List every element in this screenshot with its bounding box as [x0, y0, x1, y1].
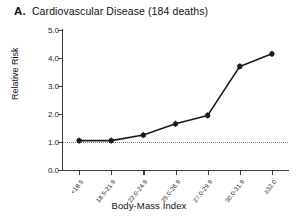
x-tick-mark [176, 170, 177, 175]
data-series [63, 30, 288, 170]
y-tick-label: 1.0 [48, 138, 59, 147]
y-tick-label: 2.0 [48, 110, 59, 119]
x-tick-label: ≥32.0 [262, 178, 277, 195]
data-point [205, 113, 210, 118]
chart-title: A. Cardiovascular Disease (184 deaths) [14, 5, 208, 17]
x-tick-mark [240, 170, 241, 175]
series-line [79, 54, 272, 141]
x-tick-mark [208, 170, 209, 175]
x-axis-label: Body-Mass Index [0, 200, 298, 211]
data-point [76, 138, 81, 143]
x-tick-label: <18.5 [69, 178, 84, 195]
y-axis-label: Relative Risk [10, 47, 20, 100]
x-tick-mark [143, 170, 144, 175]
x-tick-mark [111, 170, 112, 175]
y-tick-label: 3.0 [48, 82, 59, 91]
x-tick-mark [272, 170, 273, 175]
y-tick-label: 0.0 [48, 166, 59, 175]
panel-letter: A. [14, 5, 26, 17]
data-point [269, 51, 274, 56]
data-point [237, 64, 242, 69]
chart-title-text: Cardiovascular Disease (184 deaths) [32, 5, 208, 17]
data-point [109, 138, 114, 143]
x-tick-mark [79, 170, 80, 175]
data-point [173, 121, 178, 126]
chart-figure: A. Cardiovascular Disease (184 deaths) R… [0, 0, 298, 224]
y-tick-label: 5.0 [48, 26, 59, 35]
plot-area: 0.01.02.03.04.05.0 <18.518.5-21.922.0-24… [63, 30, 288, 170]
y-tick-label: 4.0 [48, 54, 59, 63]
data-point [141, 132, 146, 137]
